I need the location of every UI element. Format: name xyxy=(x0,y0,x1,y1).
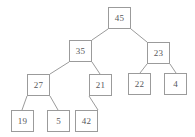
tree-node-label: 42 xyxy=(82,117,91,126)
tree-node-label: 45 xyxy=(115,14,124,23)
tree-edge-n27-n5 xyxy=(50,96,58,110)
tree-edge-n35-n27 xyxy=(50,62,69,74)
tree-node-21[interactable]: 21 xyxy=(89,74,112,96)
tree-node-45[interactable]: 45 xyxy=(108,7,131,29)
tree-edge-n21-n42 xyxy=(89,96,98,110)
tree-node-label: 23 xyxy=(154,49,163,58)
tree-node-label: 27 xyxy=(34,81,43,90)
tree-node-label: 22 xyxy=(135,80,144,89)
tree-node-19[interactable]: 19 xyxy=(11,110,34,132)
tree-edge-n23-n4 xyxy=(170,64,176,73)
tree-node-4[interactable]: 4 xyxy=(164,73,187,95)
binary-tree-diagram: 453523272122419542 xyxy=(0,0,195,137)
tree-node-label: 5 xyxy=(56,117,61,126)
tree-node-35[interactable]: 35 xyxy=(69,40,92,62)
tree-node-label: 19 xyxy=(18,117,27,126)
tree-edge-n45-n35 xyxy=(92,29,108,40)
tree-edge-n23-n22 xyxy=(140,64,147,73)
tree-node-22[interactable]: 22 xyxy=(128,73,151,95)
tree-node-23[interactable]: 23 xyxy=(147,42,170,64)
tree-node-5[interactable]: 5 xyxy=(47,110,70,132)
tree-node-label: 21 xyxy=(96,81,105,90)
tree-edge-n27-n19 xyxy=(22,96,27,110)
tree-edge-n45-n23 xyxy=(131,29,147,42)
tree-node-label: 35 xyxy=(76,47,85,56)
tree-edge-n35-n21 xyxy=(92,62,100,74)
tree-node-27[interactable]: 27 xyxy=(27,74,50,96)
tree-node-42[interactable]: 42 xyxy=(75,110,98,132)
tree-node-label: 4 xyxy=(173,80,178,89)
